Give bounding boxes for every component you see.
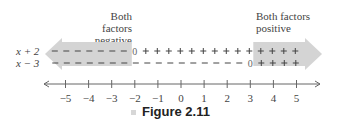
tick-label: 3 bbox=[248, 92, 254, 104]
right-region-arrow bbox=[253, 38, 322, 70]
tick-label: 4 bbox=[271, 92, 277, 104]
zero-marker: 0 bbox=[132, 46, 137, 57]
caption-text: Figure 2.11 bbox=[142, 104, 210, 119]
tick-label: 2 bbox=[224, 92, 230, 104]
tick-label: −1 bbox=[152, 92, 164, 104]
tick-label: 1 bbox=[201, 92, 207, 104]
caption-bullet-icon bbox=[131, 110, 136, 115]
figure-caption: Figure 2.11 bbox=[0, 104, 341, 119]
tick-label: 5 bbox=[294, 92, 300, 104]
zero-marker: 0 bbox=[248, 58, 253, 69]
tick-label: 0 bbox=[178, 92, 184, 104]
tick-label: −3 bbox=[106, 92, 118, 104]
tick-label: −5 bbox=[60, 92, 72, 104]
tick-label: −2 bbox=[129, 92, 141, 104]
tick-label: −4 bbox=[83, 92, 95, 104]
left-region-arrow bbox=[45, 38, 132, 70]
